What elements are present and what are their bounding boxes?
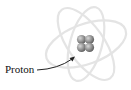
proton-particle bbox=[85, 43, 94, 52]
nucleus bbox=[77, 35, 94, 52]
proton-particle bbox=[77, 43, 86, 52]
electron-orbits bbox=[40, 0, 131, 89]
proton-label: Proton bbox=[5, 63, 34, 75]
orbit-2 bbox=[47, 0, 125, 89]
atom-diagram bbox=[0, 0, 131, 90]
proton-particle bbox=[85, 35, 94, 44]
orbit-3 bbox=[61, 3, 112, 85]
proton-particle bbox=[77, 35, 86, 44]
